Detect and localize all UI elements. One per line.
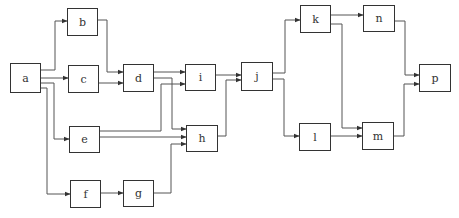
edge-g-h (154, 144, 186, 193)
edge-a-f (41, 88, 70, 194)
edge-m-p (394, 84, 419, 136)
node-b: b (67, 8, 98, 36)
node-label: l (313, 131, 317, 144)
node-j: j (241, 62, 273, 91)
node-label: c (80, 73, 86, 86)
node-label: j (255, 70, 258, 83)
edge-b-d (98, 20, 123, 72)
edge-j-k (273, 20, 300, 73)
node-n: n (363, 5, 395, 32)
edge-j-l (273, 79, 299, 136)
node-label: g (135, 187, 142, 200)
node-k: k (300, 5, 331, 33)
node-p: p (419, 64, 451, 92)
node-i: i (185, 64, 216, 91)
node-label: e (81, 133, 88, 146)
edge-k-m (331, 24, 362, 128)
node-label: n (375, 12, 382, 25)
node-m: m (362, 122, 394, 150)
node-label: m (373, 130, 383, 143)
node-label: h (198, 132, 205, 145)
node-e: e (69, 126, 100, 153)
node-label: p (431, 72, 438, 85)
edge-n-p (395, 21, 419, 75)
node-label: a (22, 72, 29, 85)
edge-h-j (218, 80, 241, 136)
node-label: d (135, 72, 142, 85)
edge-a-e (41, 83, 69, 139)
node-label: i (199, 71, 203, 84)
node-h: h (186, 125, 218, 152)
node-f: f (70, 180, 101, 208)
node-label: b (79, 16, 86, 29)
node-label: f (83, 188, 87, 201)
node-d: d (123, 64, 154, 92)
edge-a-b (41, 21, 67, 70)
node-label: k (312, 13, 319, 26)
node-g: g (123, 180, 154, 207)
node-l: l (299, 123, 331, 151)
node-c: c (68, 65, 99, 93)
node-a: a (10, 63, 41, 93)
edge-d-h (154, 78, 186, 129)
